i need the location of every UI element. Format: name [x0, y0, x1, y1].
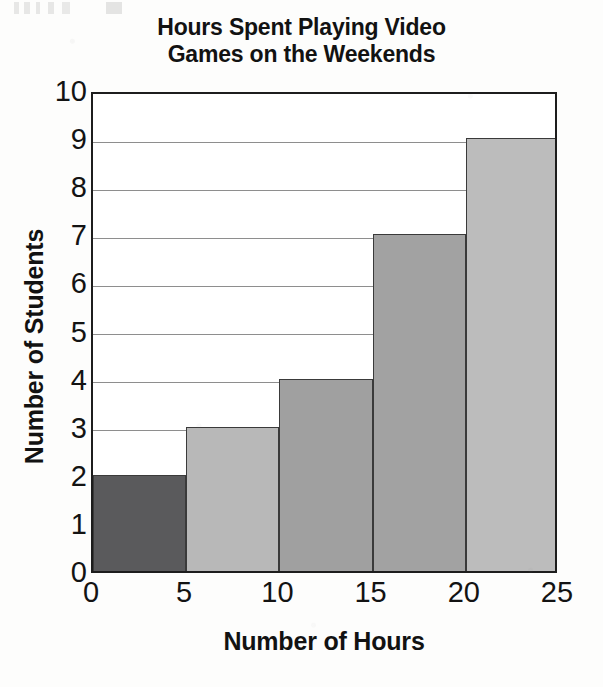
histogram-bar [279, 379, 372, 571]
chart-title-line-2: Games on the Weekends [0, 41, 603, 68]
x-tick-label: 15 [341, 578, 401, 607]
x-tick-label: 20 [434, 578, 494, 607]
y-tick-label: 8 [41, 173, 87, 202]
x-axis-title: Number of Hours [91, 627, 557, 656]
histogram-bar [373, 234, 466, 571]
x-tick-label: 10 [247, 578, 307, 607]
x-tick-label: 0 [61, 578, 121, 607]
y-tick-label: 1 [41, 510, 87, 539]
chart-title: Hours Spent Playing Video Games on the W… [0, 14, 603, 68]
x-axis-tick-labels: 0510152025 [0, 578, 603, 622]
y-tick-label: 3 [41, 414, 87, 443]
y-tick-label: 7 [41, 221, 87, 250]
y-tick-label: 2 [41, 462, 87, 491]
y-tick-label: 9 [41, 125, 87, 154]
plot-area [91, 92, 557, 573]
x-tick-label: 25 [527, 578, 587, 607]
y-tick-label: 10 [41, 77, 87, 106]
histogram-bar [186, 427, 279, 571]
histogram-bar [93, 475, 186, 571]
chart-title-line-1: Hours Spent Playing Video [0, 14, 603, 41]
bars-layer [93, 94, 555, 571]
y-tick-label: 6 [41, 269, 87, 298]
y-tick-label: 4 [41, 366, 87, 395]
y-tick-label: 5 [41, 318, 87, 347]
x-tick-label: 5 [154, 578, 214, 607]
histogram-chart: Hours Spent Playing Video Games on the W… [0, 0, 603, 687]
histogram-bar [466, 138, 557, 571]
